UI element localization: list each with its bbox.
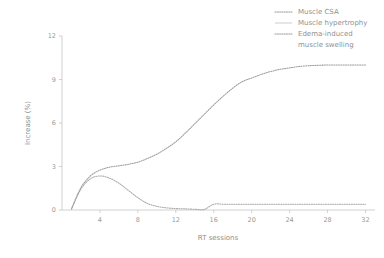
series-muscle-csa [71, 65, 365, 209]
y-tick-label: 9 [52, 76, 56, 84]
legend-label-2-line2: muscle swelling [298, 41, 354, 49]
y-axis-title: Increase (%) [24, 101, 32, 145]
x-tick-label: 16 [210, 216, 218, 224]
x-tick-label: 28 [323, 216, 331, 224]
x-axis-title: RT sessions [198, 234, 239, 242]
y-axis: 036912 [48, 32, 62, 214]
x-tick-label: 4 [98, 216, 102, 224]
series-edema-induced-muscle-swelling [71, 176, 365, 210]
legend-label-1: Muscle hypertrophy [298, 19, 367, 27]
series-layer [71, 65, 365, 210]
x-tick-label: 24 [285, 216, 293, 224]
chart-legend: Muscle CSAMuscle hypertrophyEdema-induce… [275, 8, 367, 49]
line-chart: 036912 48121620242832 Increase (%) RT se… [0, 0, 384, 258]
legend-label-0: Muscle CSA [298, 8, 339, 16]
chart-container: 036912 48121620242832 Increase (%) RT se… [0, 0, 384, 258]
y-tick-label: 12 [48, 32, 56, 40]
y-axis-ticks: 036912 [48, 32, 62, 214]
y-tick-label: 3 [52, 163, 56, 171]
x-axis-ticks: 48121620242832 [98, 210, 370, 224]
x-tick-label: 32 [361, 216, 369, 224]
legend-label-2: Edema-induced [298, 30, 353, 38]
x-axis: 48121620242832 [62, 210, 375, 224]
x-tick-label: 8 [136, 216, 140, 224]
x-tick-label: 12 [172, 216, 180, 224]
x-tick-label: 20 [248, 216, 256, 224]
y-tick-label: 0 [52, 206, 56, 214]
y-tick-label: 6 [52, 119, 56, 127]
